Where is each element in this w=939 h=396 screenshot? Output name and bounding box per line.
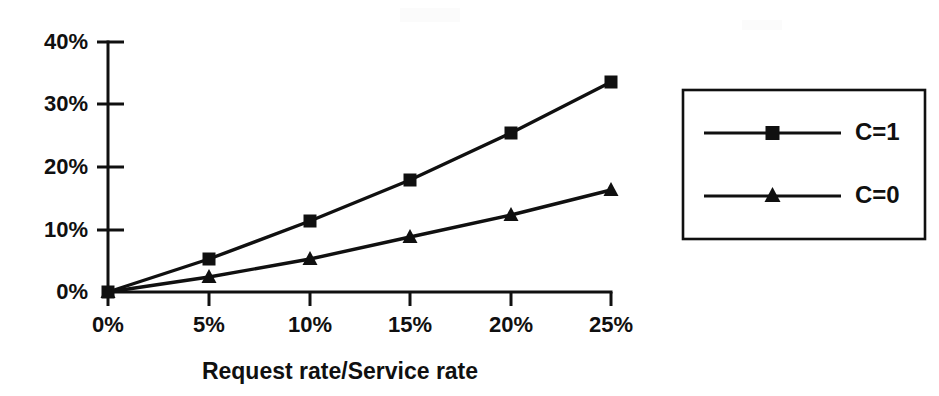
x-tick-label: 10% bbox=[270, 314, 350, 336]
square-marker-icon bbox=[766, 126, 780, 140]
triangle-marker-icon bbox=[604, 182, 619, 196]
series-c0-line bbox=[108, 190, 611, 292]
legend-label-c1: C=1 bbox=[855, 120, 900, 144]
y-tick-label: 30% bbox=[10, 93, 88, 115]
x-axis bbox=[108, 292, 611, 306]
x-tick-label: 15% bbox=[370, 314, 450, 336]
x-tick-label: 5% bbox=[169, 314, 249, 336]
x-axis-title: Request rate/Service rate bbox=[0, 358, 680, 385]
square-marker-icon bbox=[605, 76, 618, 89]
legend-label-c0: C=0 bbox=[855, 183, 900, 207]
y-tick-label: 40% bbox=[10, 31, 88, 53]
x-tick-label: 20% bbox=[471, 314, 551, 336]
series-c1-line bbox=[108, 82, 611, 292]
square-marker-icon bbox=[304, 215, 317, 228]
y-tick-label: 20% bbox=[10, 156, 88, 178]
y-axis bbox=[97, 42, 124, 293]
y-tick-label: 10% bbox=[10, 219, 88, 241]
legend-box bbox=[683, 90, 925, 239]
y-tick-label: 0% bbox=[10, 281, 88, 303]
chart-figure: 40% 30% 20% 10% 0% 0% 5% 10% 15% 20% 25%… bbox=[0, 0, 939, 396]
square-marker-icon bbox=[505, 127, 518, 140]
chart-canvas bbox=[0, 0, 939, 396]
series-c1 bbox=[102, 76, 618, 299]
square-marker-icon bbox=[203, 253, 216, 266]
x-tick-label: 0% bbox=[68, 314, 148, 336]
square-marker-icon bbox=[404, 174, 417, 187]
x-tick-label: 25% bbox=[571, 314, 651, 336]
